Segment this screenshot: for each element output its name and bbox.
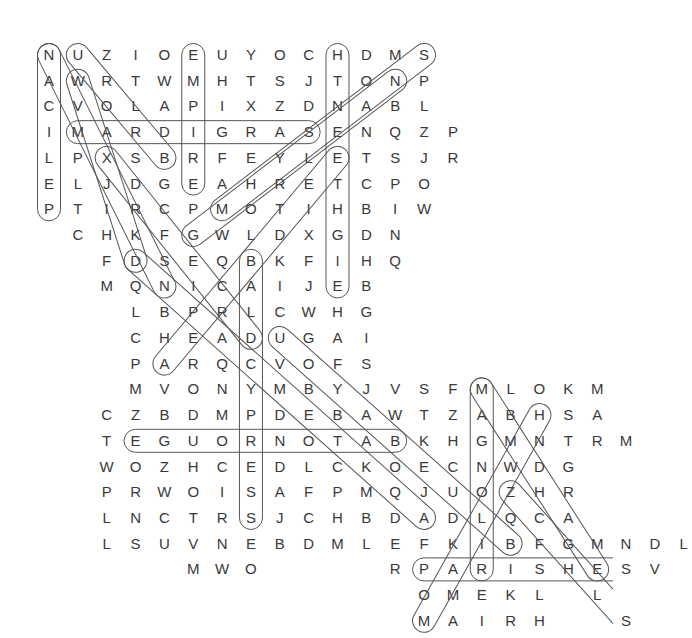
grid-letter: Q <box>500 507 522 529</box>
grid-letter: E <box>240 533 262 555</box>
grid-letter: A <box>557 507 579 529</box>
grid-letter: Z <box>125 404 147 426</box>
grid-letter: M <box>211 198 233 220</box>
grid-letter: R <box>442 147 464 169</box>
grid-letter: G <box>182 224 204 246</box>
grid-letter: D <box>269 224 291 246</box>
grid-letter: C <box>38 95 60 117</box>
grid-letter: R <box>211 507 233 529</box>
grid-letter: B <box>500 404 522 426</box>
grid-letter: I <box>125 44 147 66</box>
grid-letter: P <box>413 558 435 580</box>
grid-letter: L <box>240 224 262 246</box>
grid-letter: M <box>500 430 522 452</box>
grid-letter: G <box>153 430 175 452</box>
grid-letter: S <box>240 481 262 503</box>
grid-letter: E <box>298 173 320 195</box>
grid-letter: S <box>615 610 637 632</box>
grid-letter: H <box>327 301 349 323</box>
grid-letter: S <box>355 353 377 375</box>
grid-letter: L <box>96 507 118 529</box>
grid-letter: S <box>125 147 147 169</box>
grid-letter: L <box>586 584 608 606</box>
grid-letter: E <box>38 173 60 195</box>
grid-letter: W <box>96 456 118 478</box>
grid-letter: J <box>269 507 291 529</box>
grid-letter: O <box>528 378 550 400</box>
grid-letter: A <box>442 610 464 632</box>
grid-letter: O <box>240 558 262 580</box>
grid-letter: H <box>240 173 262 195</box>
grid-letter: J <box>355 378 377 400</box>
grid-letter: P <box>327 481 349 503</box>
grid-letter: D <box>269 456 291 478</box>
grid-letter: H <box>528 610 550 632</box>
grid-letter: S <box>153 250 175 272</box>
grid-letter: N <box>615 533 637 555</box>
grid-letter: Q <box>384 121 406 143</box>
grid-letter: F <box>96 250 118 272</box>
grid-letter: R <box>471 558 493 580</box>
grid-letter: K <box>269 250 291 272</box>
grid-letter: M <box>269 378 291 400</box>
grid-letter: T <box>182 507 204 529</box>
grid-letter: L <box>96 533 118 555</box>
grid-letter: D <box>355 224 377 246</box>
grid-letter: I <box>471 533 493 555</box>
grid-letter: D <box>182 404 204 426</box>
grid-letter: Q <box>384 250 406 272</box>
grid-letter: A <box>153 95 175 117</box>
grid-letter: E <box>298 404 320 426</box>
grid-letter: O <box>240 198 262 220</box>
grid-letter: H <box>153 327 175 349</box>
grid-letter: C <box>67 224 89 246</box>
grid-letter: F <box>298 250 320 272</box>
grid-letter: P <box>442 121 464 143</box>
grid-letter: P <box>96 481 118 503</box>
grid-letter: H <box>211 70 233 92</box>
grid-letter: B <box>384 430 406 452</box>
grid-letter: G <box>355 301 377 323</box>
grid-letter: O <box>125 456 147 478</box>
grid-letter: O <box>182 378 204 400</box>
grid-letter: W <box>500 456 522 478</box>
grid-letter: V <box>182 533 204 555</box>
grid-letter: E <box>182 173 204 195</box>
grid-letter: O <box>413 584 435 606</box>
grid-letter: A <box>153 353 175 375</box>
grid-letter: V <box>384 378 406 400</box>
grid-letter: L <box>298 147 320 169</box>
grid-letter: V <box>153 378 175 400</box>
grid-letter: T <box>327 173 349 195</box>
grid-letter: A <box>355 404 377 426</box>
grid-letter: E <box>327 275 349 297</box>
grid-letter: O <box>269 44 291 66</box>
grid-letter: D <box>644 533 666 555</box>
grid-letter: W <box>153 481 175 503</box>
grid-letter: E <box>240 147 262 169</box>
grid-letter: P <box>67 147 89 169</box>
grid-letter: H <box>182 456 204 478</box>
grid-letter: P <box>125 353 147 375</box>
grid-letter: A <box>38 70 60 92</box>
grid-letter: U <box>442 481 464 503</box>
grid-letter: O <box>96 95 118 117</box>
grid-letter: N <box>528 430 550 452</box>
grid-letter: M <box>182 558 204 580</box>
grid-letter: I <box>182 121 204 143</box>
grid-letter: R <box>182 353 204 375</box>
grid-letter: E <box>384 533 406 555</box>
grid-letter: O <box>153 44 175 66</box>
grid-letter: O <box>182 481 204 503</box>
grid-letter: Y <box>240 44 262 66</box>
grid-letter: R <box>586 430 608 452</box>
grid-letter: N <box>211 533 233 555</box>
grid-letter: H <box>557 558 579 580</box>
grid-letter: F <box>153 224 175 246</box>
grid-letter: C <box>327 456 349 478</box>
grid-letter: A <box>355 95 377 117</box>
grid-letter: R <box>557 481 579 503</box>
grid-letter: S <box>528 558 550 580</box>
grid-letter: D <box>125 250 147 272</box>
grid-letter: C <box>298 44 320 66</box>
